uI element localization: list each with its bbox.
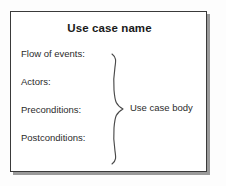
use-case-box: Use case name bbox=[10, 11, 207, 172]
section-label-flow-of-events: Flow of events: bbox=[21, 48, 85, 59]
diagram-canvas: Use case name Flow of events: Actors: Pr… bbox=[0, 0, 226, 186]
use-case-title: Use case name bbox=[11, 22, 208, 34]
section-label-postconditions: Postconditions: bbox=[21, 132, 85, 143]
section-label-actors: Actors: bbox=[21, 76, 51, 87]
section-label-preconditions: Preconditions: bbox=[21, 104, 81, 115]
use-case-body-annotation: Use case body bbox=[130, 102, 193, 113]
